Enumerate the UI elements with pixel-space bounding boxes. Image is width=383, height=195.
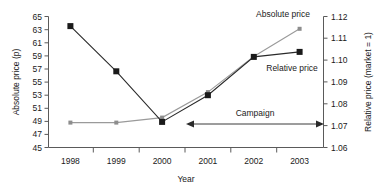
left-tick-label-53: 53 [33, 90, 43, 100]
left-tick-label-59: 59 [33, 51, 43, 61]
price-trend-chart: 45 47 49 51 53 55 57 59 61 63 65 1.06 1.… [0, 0, 383, 195]
x-tick-label-2000: 2000 [153, 156, 172, 166]
data-point-1998-relative [67, 23, 73, 29]
data-point-2003-absolute [298, 27, 302, 31]
data-point-2002-relative [251, 54, 257, 60]
right-tick-label-109: 1.09 [331, 77, 348, 87]
left-tick-label-49: 49 [33, 116, 43, 126]
left-tick-label-65: 65 [33, 12, 43, 22]
right-tick-label-111: 1.11 [331, 33, 347, 43]
campaign-label: Campaign [236, 108, 275, 118]
left-tick-label-57: 57 [33, 64, 43, 74]
left-tick-label-47: 47 [33, 129, 43, 139]
left-axis-ticks: 45 47 49 51 53 55 57 59 61 63 65 [33, 12, 49, 153]
right-tick-label-106: 1.06 [331, 143, 348, 153]
right-tick-label-108: 1.08 [331, 99, 348, 109]
right-tick-label-110: 1.10 [331, 55, 348, 65]
left-tick-label-63: 63 [33, 25, 43, 35]
right-axis-ticks: 1.06 1.07 1.08 1.09 1.10 1.11 1.12 [324, 12, 348, 153]
right-axis-title: Relative price (market = 1) [363, 32, 373, 132]
chart-container: 45 47 49 51 53 55 57 59 61 63 65 1.06 1.… [0, 0, 383, 195]
data-point-1999-relative [113, 68, 119, 74]
series-label-absolute-price: Absolute price [256, 9, 310, 19]
campaign-annotation: Campaign [186, 108, 324, 127]
x-axis-ticks: 1998 1999 2000 2001 2002 2003 [61, 148, 309, 167]
x-tick-label-2003: 2003 [290, 156, 309, 166]
x-axis-title: Year [177, 174, 194, 184]
x-tick-label-1999: 1999 [107, 156, 126, 166]
axes-group [49, 17, 324, 148]
x-tick-label-1998: 1998 [61, 156, 80, 166]
campaign-arrow-head-right [316, 121, 324, 128]
data-point-1999-absolute [114, 121, 118, 125]
x-tick-label-2001: 2001 [198, 156, 217, 166]
right-tick-label-107: 1.07 [331, 121, 348, 131]
x-tick-label-2002: 2002 [244, 156, 263, 166]
left-axis-title: Absolute price (p) [11, 49, 21, 116]
left-tick-label-55: 55 [33, 77, 43, 87]
left-tick-label-45: 45 [33, 143, 43, 153]
right-tick-label-112: 1.12 [331, 12, 348, 22]
left-tick-label-61: 61 [33, 38, 43, 48]
data-point-2000-relative [159, 119, 165, 125]
data-point-1998-absolute [68, 121, 72, 125]
series-label-relative-price: Relative price [266, 63, 318, 73]
campaign-arrow-head-left [186, 121, 194, 128]
left-tick-label-51: 51 [33, 103, 43, 113]
data-point-2003-relative [297, 49, 303, 55]
data-point-2001-relative [205, 92, 211, 98]
